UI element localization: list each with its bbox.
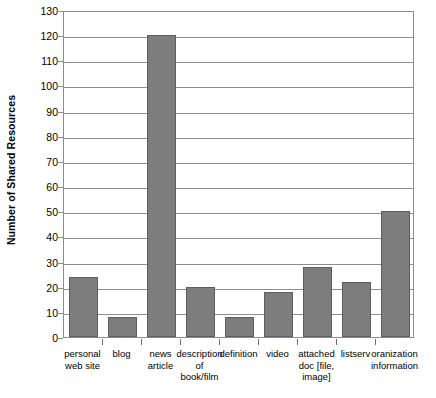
gridline — [64, 138, 413, 139]
x-axis-tick-mark — [219, 339, 220, 345]
gridline — [64, 62, 413, 63]
y-axis-tick-label: 20 — [18, 282, 58, 294]
x-axis-tick-mark — [375, 339, 376, 345]
gridline — [64, 163, 413, 164]
x-axis-tick-mark — [102, 339, 103, 345]
x-axis-tick-mark — [297, 339, 298, 345]
gridline — [64, 213, 413, 214]
plot-area — [63, 11, 414, 338]
y-axis-tick-label: 130 — [18, 5, 58, 17]
gridline — [64, 238, 413, 239]
y-axis-tick-label: 80 — [18, 131, 58, 143]
x-axis-tick-mark — [180, 339, 181, 345]
bar — [147, 35, 176, 337]
y-axis-tick-label: 40 — [18, 231, 58, 243]
y-axis-tick-label: 120 — [18, 30, 58, 42]
gridline — [64, 113, 413, 114]
bar — [69, 277, 98, 337]
y-axis-tick-label: 90 — [18, 106, 58, 118]
bar — [108, 317, 137, 337]
x-axis-tick-mark — [141, 339, 142, 345]
gridline — [64, 37, 413, 38]
gridline — [64, 264, 413, 265]
y-axis-tick-label: 60 — [18, 181, 58, 193]
y-axis-tick-label: 0 — [18, 332, 58, 344]
gridline — [64, 87, 413, 88]
x-axis-tick-label: oranization information — [371, 348, 418, 371]
y-axis-tick-label: 100 — [18, 80, 58, 92]
bar — [342, 282, 371, 337]
gridline — [64, 188, 413, 189]
y-axis-tick-label: 30 — [18, 257, 58, 269]
y-axis-tick-label: 10 — [18, 307, 58, 319]
y-axis-title-text: Number of Shared Resources — [5, 95, 17, 245]
bar — [381, 211, 410, 337]
y-axis-tick-label: 50 — [18, 206, 58, 218]
y-axis-tick-label: 110 — [18, 55, 58, 67]
x-axis-tick-mark — [336, 339, 337, 345]
x-axis-tick-mark — [258, 339, 259, 345]
bar — [186, 287, 215, 337]
y-axis-tick-mark — [57, 338, 63, 339]
bar-chart: Number of Shared Resources 0102030405060… — [0, 0, 436, 398]
y-axis-tick-label: 70 — [18, 156, 58, 168]
bar — [303, 267, 332, 337]
bar — [264, 292, 293, 337]
bar — [225, 317, 254, 337]
